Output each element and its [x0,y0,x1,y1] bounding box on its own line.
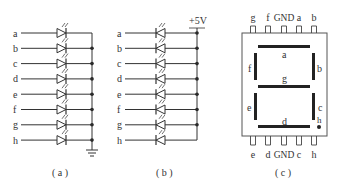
led-diode-icon [156,115,165,130]
pin-top-b: b [312,12,317,33]
row-label: g [117,119,122,130]
pin-label: g [251,12,256,23]
row-b: b [13,38,94,54]
led-diode-icon [156,100,165,115]
row-c: c [13,54,94,70]
segment-c [312,93,315,120]
row-label: f [13,104,17,115]
panel-a-common-cathode: abcdefgh ( a ) [13,23,98,179]
seg-label-e: e [247,102,252,113]
seg-label-h: h [317,115,322,125]
ground-icon [86,150,98,156]
led-diode-icon [57,54,68,69]
pin-top-GND: GND [274,13,295,33]
row-label: h [13,135,18,146]
row-label: a [117,28,122,39]
led-diode-icon [57,115,68,130]
row-label: g [13,119,18,130]
supply-label: +5V [189,15,208,26]
row-label: f [117,104,121,115]
diagram-canvas: abcdefgh ( a ) abcdefgh +5V ( b ) gfGNDa… [0,0,339,185]
row-a: a [117,23,199,39]
row-e: e [117,84,199,100]
pin-top-f: f [266,12,271,33]
led-diode-icon [156,38,165,53]
row-c: c [117,54,199,70]
led-diode-icon [57,130,68,145]
segment-f [254,53,257,80]
pin-bottom-d: d [266,136,271,160]
row-h: h [117,130,197,146]
segment-b [312,53,315,80]
row-g: g [13,115,94,131]
pin-bottom-c: c [297,136,302,160]
pin-top-a: a [297,12,302,33]
led-diode-icon [57,69,68,84]
panel-c-seven-segment: gfGNDab edGNDch a b c d e f g h ( c ) [242,12,327,179]
row-label: e [13,89,18,100]
pin-label: a [297,12,302,23]
row-label: b [117,43,122,54]
caption-c: ( c ) [275,167,291,179]
pin-bottom-GND: GND [274,136,295,160]
row-label: d [117,73,122,84]
pin-label: h [312,149,317,160]
led-diode-icon [156,54,165,69]
seg-label-b: b [317,63,322,74]
panel-b-common-anode: abcdefgh +5V ( b ) [117,15,208,179]
row-d: d [117,69,199,85]
row-b: b [117,38,199,54]
caption-a: ( a ) [52,167,68,179]
seg-label-d: d [282,116,287,127]
led-diode-icon [57,23,68,38]
row-d: d [13,69,94,85]
led-diode-icon [156,23,165,38]
pin-top-g: g [251,12,256,33]
pin-label: GND [274,150,295,160]
segment-e [254,93,257,120]
pin-label: c [297,149,302,160]
led-diode-icon [57,38,68,53]
led-diode-icon [57,100,68,115]
row-label: d [13,73,18,84]
row-label: h [117,135,122,146]
row-a: a [13,23,92,39]
pin-bottom-e: e [251,136,256,160]
row-label: b [13,43,18,54]
segment-h-dot [317,125,321,129]
pin-bottom-h: h [312,136,317,160]
row-e: e [13,84,94,100]
seg-label-g: g [282,73,287,84]
seg-label-a: a [282,49,287,60]
seg-label-c: c [318,102,323,113]
row-g: g [117,115,199,131]
caption-b: ( b ) [156,167,173,179]
row-label: e [117,89,122,100]
pin-label: GND [274,13,295,23]
led-diode-icon [156,84,165,99]
pin-label: e [251,149,256,160]
pin-label: d [266,149,271,160]
segment-a [258,45,310,48]
pin-label: b [312,12,317,23]
row-h: h [13,130,94,146]
led-diode-icon [156,69,165,84]
segment-g [258,85,310,88]
row-f: f [117,100,199,116]
row-label: c [117,58,122,69]
led-diode-icon [57,84,68,99]
row-f: f [13,100,94,116]
led-diode-icon [156,130,165,145]
row-label: c [13,58,18,69]
row-label: a [13,28,18,39]
pin-label: f [266,12,270,23]
